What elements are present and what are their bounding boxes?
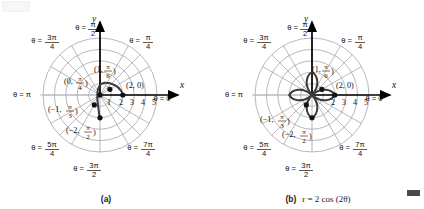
tick-label: 3: [342, 98, 346, 107]
caption-b-equation: r = 2 cos (2θ): [302, 194, 350, 204]
point-label-2-0: (2, 0): [126, 81, 144, 90]
ray-label-theta-pi-2: θ = π 2: [287, 20, 310, 38]
svg-text:π: π: [324, 63, 328, 71]
panel-a-plot: 1 2 3 4 5 x y θ = 0 θ = π 4: [0, 0, 212, 209]
point-label-0-pi-4: (0, π 4 ): [64, 75, 88, 92]
x-tick-labels-b: 2 3 4 5: [331, 98, 368, 107]
svg-text:4: 4: [50, 42, 54, 51]
ray-label-theta-3pi-2: θ = 3π 2: [285, 161, 313, 179]
point-label-neg2-pi-2: (−2, π 2 ): [282, 128, 312, 145]
svg-text:2: 2: [86, 133, 90, 141]
svg-text:5π: 5π: [47, 140, 56, 149]
svg-text:2: 2: [91, 29, 95, 38]
svg-text:π: π: [68, 103, 72, 111]
svg-text:6: 6: [106, 72, 110, 80]
svg-text:θ =: θ =: [243, 36, 254, 45]
polar-graph-figure: 1 2 3 4 5 x y θ = 0 θ = π 4: [0, 0, 424, 209]
axes-b: [252, 22, 390, 95]
caption-b-label: (b): [285, 194, 296, 204]
caption-a-label: (a): [101, 194, 111, 204]
tick-label: 4: [353, 98, 357, 107]
panel-b: 2 3 4 5 x y θ = 0 θ = π 4 θ = π: [212, 0, 424, 209]
svg-text:7π: 7π: [143, 140, 152, 149]
ray-label-theta-3pi-2: θ = 3π 2: [73, 161, 101, 179]
svg-text:θ =: θ =: [73, 164, 84, 173]
svg-text:2: 2: [302, 137, 306, 145]
point-label-1-pi-6: (1, π 6 ): [312, 63, 334, 80]
svg-text:θ =: θ =: [243, 143, 254, 152]
svg-text:4: 4: [146, 149, 150, 158]
svg-text:(−2,: (−2,: [66, 126, 80, 135]
svg-text:6: 6: [324, 72, 328, 80]
svg-text:θ =: θ =: [339, 143, 350, 152]
svg-text:): ): [75, 107, 78, 116]
svg-text:): ): [309, 132, 312, 141]
svg-text:θ =: θ =: [31, 143, 42, 152]
svg-text:θ =: θ =: [31, 36, 42, 45]
svg-text:3π: 3π: [89, 161, 98, 170]
tick-label: 4: [141, 98, 145, 107]
ray-label-theta-0: θ = 0: [153, 94, 170, 103]
tick-label: 2: [331, 98, 335, 107]
ray-label-theta-pi: θ = π: [13, 90, 31, 99]
svg-text:4: 4: [358, 42, 362, 51]
point-2-0: [332, 92, 337, 97]
panel-a: 1 2 3 4 5 x y θ = 0 θ = π 4: [0, 0, 212, 209]
svg-text:2: 2: [303, 29, 307, 38]
svg-text:3: 3: [68, 112, 72, 120]
svg-text:3π: 3π: [301, 161, 310, 170]
svg-text:π: π: [280, 113, 284, 121]
point-neg2-pi-2: [309, 115, 314, 120]
corner-mark: [407, 190, 420, 196]
point-label-2-0: (2, 0): [336, 81, 354, 90]
point-label-neg2-pi-2: (−2, π 2 ): [66, 124, 96, 141]
svg-text:π: π: [302, 128, 306, 136]
ray-label-theta-5pi-4: θ = 5π 4: [31, 140, 59, 158]
svg-text:(1,: (1,: [312, 65, 321, 74]
tick-label: 3: [130, 98, 134, 107]
svg-text:π: π: [145, 33, 150, 42]
point-label-neg1-pi-3: (−1, π 3 ): [48, 103, 78, 120]
svg-text:4: 4: [262, 149, 266, 158]
svg-text:θ =: θ =: [127, 143, 138, 152]
svg-text:4: 4: [262, 42, 266, 51]
svg-text:4: 4: [146, 42, 150, 51]
point-0-pi-4: [97, 92, 102, 97]
svg-text:4: 4: [50, 149, 54, 158]
point-neg2-pi-2: [97, 115, 102, 120]
svg-text:2: 2: [92, 170, 96, 179]
ray-label-theta-0: θ = 0: [365, 94, 382, 103]
svg-text:π: π: [86, 124, 90, 132]
svg-text:π: π: [302, 20, 307, 29]
svg-text:π: π: [78, 75, 82, 83]
svg-text:θ =: θ =: [75, 23, 86, 32]
svg-text:π: π: [357, 33, 362, 42]
svg-text:θ =: θ =: [129, 36, 140, 45]
svg-text:3π: 3π: [47, 33, 56, 42]
point-neg1-pi-3: [304, 102, 309, 107]
svg-text:4: 4: [358, 149, 362, 158]
x-tick-labels-a: 1 2 3 4 5: [107, 98, 156, 107]
svg-text:3π: 3π: [259, 33, 268, 42]
svg-text:(−1,: (−1,: [48, 105, 62, 114]
svg-text:7π: 7π: [355, 140, 364, 149]
point-1-pi-6: [319, 87, 324, 92]
svg-text:3: 3: [280, 122, 284, 130]
point-2-0: [120, 92, 125, 97]
tick-label: 2: [119, 98, 123, 107]
point-label-1-pi-6: (1, π 6 ): [94, 63, 116, 80]
ray-label-theta-5pi-4: θ = 5π 4: [243, 140, 271, 158]
svg-text:): ): [287, 117, 290, 126]
svg-text:): ): [331, 67, 334, 76]
point-neg1-pi-3: [92, 102, 97, 107]
svg-text:θ =: θ =: [285, 164, 296, 173]
svg-text:θ =: θ =: [341, 36, 352, 45]
svg-text:(0,: (0,: [64, 77, 73, 86]
svg-text:π: π: [106, 63, 110, 71]
svg-text:): ): [113, 67, 116, 76]
svg-text:): ): [93, 128, 96, 137]
caption-a: (a): [0, 194, 212, 204]
ray-label-theta-7pi-4: θ = 7π 4: [339, 140, 367, 158]
x-axis-label-b: x: [391, 80, 397, 90]
svg-text:π: π: [90, 20, 95, 29]
